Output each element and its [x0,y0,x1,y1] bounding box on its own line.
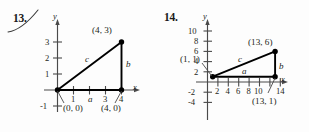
y-tick-label-1: 1 [45,70,49,79]
x-tick-label-6: 6 [236,87,240,96]
point-label-13-1: (13, 1) [252,97,277,106]
point-label-4-0: (4, 0) [101,104,121,113]
y-tick-label-2: 2 [45,54,49,63]
y-axis-label: y [203,12,207,21]
edge-c-hypotenuse [58,42,122,90]
x-tick-label-2: 2 [215,87,219,96]
y-tick-label-8: 8 [194,37,198,46]
side-label-a: a [242,67,247,76]
leader-origin [58,91,65,103]
side-label-c: c [238,55,242,64]
leader-1-1 [202,63,212,76]
x-tick-label-10: 10 [254,87,263,96]
side-label-c: c [85,55,89,64]
side-label-a: a [88,95,93,104]
side-label-b: b [279,62,284,71]
worksheet-page: 13. [0,0,309,132]
y-tick-label-neg2: -2 [188,88,195,97]
y-axis-label: y [53,12,57,21]
vertex-13-6 [272,49,277,54]
side-label-b: b [126,60,131,69]
plot-14 [154,0,309,132]
y-tick-label-3: 3 [45,38,49,47]
vertex-4-3 [119,39,124,44]
point-label-0-0: (0, 0) [63,104,83,113]
x-axis-label: x [133,83,137,92]
x-tick-label-4: 4 [226,87,230,96]
x-axis-label: x [281,75,285,84]
y-tick-label-neg4: -4 [188,98,195,107]
figure-13: 13. [0,0,155,132]
figure-14: 14. [154,0,309,132]
point-label-4-3: (4, 3) [92,26,112,35]
x-tick-label-8: 8 [247,87,251,96]
point-label-1-1: (1, 1) [180,55,200,64]
x-tick-label-14: 14 [276,87,285,96]
point-label-13-6: (13, 6) [248,38,273,47]
y-tick-label-2: 2 [194,68,198,77]
y-tick-label-neg1: -1 [40,102,47,111]
leader-13-1 [268,78,275,93]
y-tick-label-10: 10 [188,27,197,36]
